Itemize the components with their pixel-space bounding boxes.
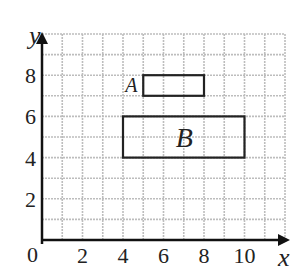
- y-axis-label: y: [26, 21, 41, 50]
- tick-labels: 2468102468: [25, 63, 256, 268]
- x-tick-label: 4: [118, 243, 129, 268]
- y-tick-label: 6: [25, 104, 36, 129]
- rectangle-a: [143, 75, 204, 96]
- rectangle-label-b: B: [176, 122, 193, 153]
- rectangle-label-a: A: [123, 74, 138, 96]
- y-tick-label: 2: [25, 187, 36, 212]
- y-tick-label: 8: [25, 63, 36, 88]
- x-axis-label: x: [277, 243, 290, 272]
- origin-label: 0: [27, 242, 38, 267]
- coordinate-grid-figure: AB y x 0 2468102468: [0, 0, 301, 280]
- x-tick-label: 6: [158, 243, 169, 268]
- y-tick-label: 4: [25, 146, 36, 171]
- axis-labels: y x 0: [26, 21, 290, 272]
- x-tick-label: 10: [234, 243, 256, 268]
- grid-lines: [42, 34, 285, 240]
- x-tick-label: 8: [199, 243, 210, 268]
- x-tick-label: 2: [77, 243, 88, 268]
